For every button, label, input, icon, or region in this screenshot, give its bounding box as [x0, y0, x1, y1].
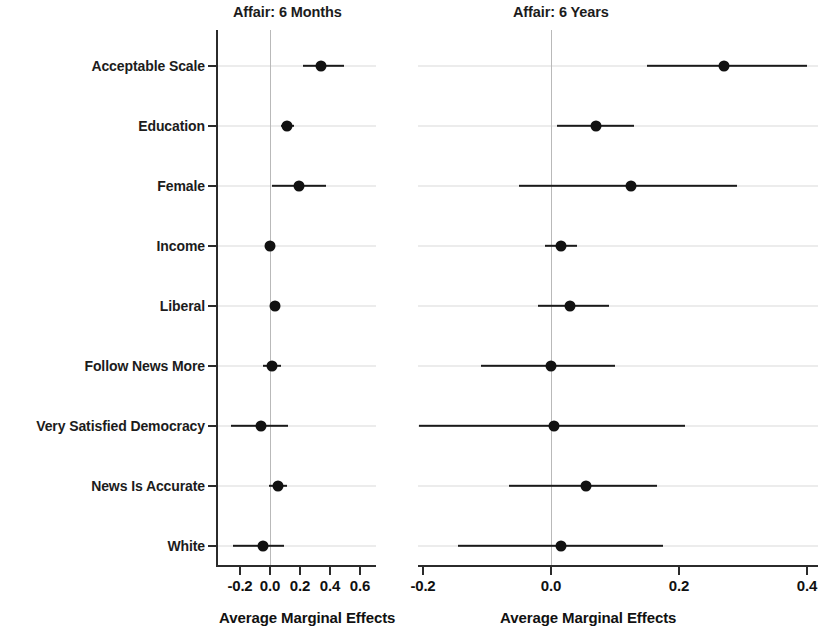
estimate-point-0-5: [266, 361, 277, 372]
panel-title-1: Affair: 6 Years: [513, 4, 609, 20]
coefficient-plot-figure: Affair: 6 MonthsAcceptable ScaleEducatio…: [0, 0, 819, 633]
estimate-point-1-0: [718, 61, 729, 72]
category-label-5: Follow News More: [84, 358, 205, 374]
estimate-point-1-2: [626, 181, 637, 192]
gridline-3: [418, 246, 818, 247]
y-axis-spine: [216, 30, 218, 565]
x-tick-0-0: [239, 567, 241, 575]
gridline-3: [216, 246, 376, 247]
estimate-point-0-6: [256, 421, 267, 432]
gridline-5: [216, 366, 376, 367]
estimate-point-1-5: [546, 361, 557, 372]
y-tick-3: [208, 245, 216, 247]
category-label-2: Female: [157, 178, 205, 194]
x-tick-label-1-1: 0.0: [541, 577, 561, 594]
estimate-point-1-4: [565, 301, 576, 312]
estimate-point-0-1: [281, 121, 292, 132]
estimate-point-0-2: [293, 181, 304, 192]
gridline-4: [418, 306, 818, 307]
x-tick-label-1-3: 0.4: [797, 577, 817, 594]
y-tick-8: [208, 545, 216, 547]
estimate-point-1-3: [555, 241, 566, 252]
x-axis-title-0: Average Marginal Effects: [219, 609, 395, 626]
gridline-5: [418, 366, 818, 367]
estimate-point-1-1: [590, 121, 601, 132]
y-tick-6: [208, 425, 216, 427]
x-tick-0-4: [359, 567, 361, 575]
x-tick-1-2: [678, 567, 680, 575]
x-tick-0-3: [329, 567, 331, 575]
category-label-3: Income: [157, 238, 205, 254]
x-tick-1-0: [422, 567, 424, 575]
x-tick-0-2: [299, 567, 301, 575]
estimate-point-1-6: [549, 421, 560, 432]
x-tick-label-0-2: 0.2: [290, 577, 310, 594]
x-tick-1-3: [806, 567, 808, 575]
gridline-1: [216, 126, 376, 127]
x-tick-label-0-1: 0.0: [260, 577, 280, 594]
y-tick-2: [208, 185, 216, 187]
estimate-point-0-8: [257, 541, 268, 552]
x-axis-title-1: Average Marginal Effects: [500, 609, 676, 626]
estimate-point-0-3: [265, 241, 276, 252]
gridline-4: [216, 306, 376, 307]
x-tick-label-0-0: -0.2: [227, 577, 252, 594]
estimate-point-1-8: [555, 541, 566, 552]
x-tick-0-1: [269, 567, 271, 575]
category-label-6: Very Satisfied Democracy: [36, 418, 205, 434]
estimate-point-0-0: [316, 61, 327, 72]
y-tick-0: [208, 65, 216, 67]
gridline-7: [216, 486, 376, 487]
y-tick-7: [208, 485, 216, 487]
estimate-point-1-7: [581, 481, 592, 492]
category-label-7: News Is Accurate: [91, 478, 205, 494]
category-label-4: Liberal: [160, 298, 205, 314]
y-tick-4: [208, 305, 216, 307]
x-tick-label-0-3: 0.4: [320, 577, 340, 594]
panel-title-0: Affair: 6 Months: [233, 4, 342, 20]
x-tick-label-0-4: 0.6: [350, 577, 370, 594]
category-label-1: Education: [138, 118, 205, 134]
x-tick-label-1-0: -0.2: [410, 577, 435, 594]
x-tick-label-1-2: 0.2: [669, 577, 689, 594]
estimate-point-0-4: [269, 301, 280, 312]
estimate-point-0-7: [272, 481, 283, 492]
category-label-0: Acceptable Scale: [91, 58, 205, 74]
y-tick-5: [208, 365, 216, 367]
x-axis-spine-1: [418, 565, 818, 567]
y-tick-1: [208, 125, 216, 127]
gridline-0: [216, 66, 376, 67]
x-tick-1-1: [550, 567, 552, 575]
category-label-8: White: [167, 538, 205, 554]
